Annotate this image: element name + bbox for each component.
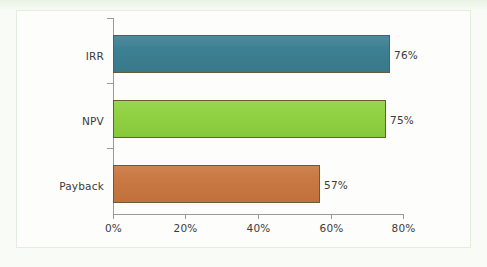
value-label-payback: 57% [324,179,348,191]
x-tick-label-20: 20% [165,222,206,234]
x-axis-tick-40 [258,214,259,219]
x-axis-tick-60 [331,214,332,219]
value-label-npv: 75% [390,114,414,126]
x-tick-label-80: 80% [383,222,424,234]
x-axis-tick-80 [403,214,404,219]
value-label-irr: 76% [394,49,418,61]
y-axis-tick-2 [107,148,113,149]
x-axis-tick-20 [185,214,186,219]
y-axis-tick-top [107,18,113,19]
x-tick-label-60: 60% [311,222,352,234]
bar-sheen-payback [114,166,319,202]
bar-irr [113,35,390,73]
x-tick-label-0: 0% [93,222,134,234]
x-axis-tick-0 [113,214,114,219]
bar-payback [113,165,320,203]
bar-sheen-irr [114,36,389,72]
horizontal-bar-chart: IRR 76% NPV 75% Payback 57% 0% 20% 40% 6… [0,0,487,267]
x-tick-label-40: 40% [238,222,279,234]
scanned-page: IRR 76% NPV 75% Payback 57% 0% 20% 40% 6… [0,0,487,267]
category-label-irr: IRR [38,50,104,62]
category-label-npv: NPV [38,115,104,127]
category-label-payback: Payback [38,180,104,192]
bar-npv [113,100,386,138]
y-axis-tick-1 [107,83,113,84]
bar-sheen-npv [114,101,385,137]
